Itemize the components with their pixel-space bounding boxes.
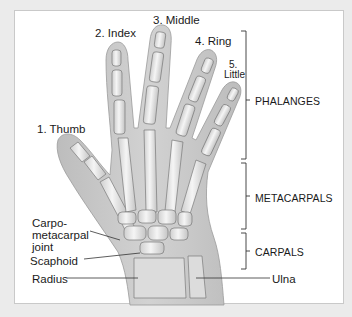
label-ring: 4. Ring <box>195 35 231 47</box>
region-brackets <box>241 31 250 269</box>
label-scaphoid: Scaphoid <box>30 255 78 267</box>
label-metacarpals: METACARPALS <box>255 192 333 204</box>
label-carpals: CARPALS <box>255 246 304 258</box>
hand-skeleton-illustration <box>0 0 352 317</box>
label-cmc-line1: Carpo- <box>32 217 67 229</box>
label-little: Little <box>224 69 245 80</box>
label-cmc-line3: joint <box>32 241 53 253</box>
label-thumb: 1. Thumb <box>37 123 85 135</box>
label-index: 2. Index <box>95 27 136 39</box>
label-radius: Radius <box>32 273 68 285</box>
label-cmc-line2: metacarpal <box>32 229 89 241</box>
label-middle: 3. Middle <box>153 14 200 26</box>
label-phalanges: PHALANGES <box>255 95 320 107</box>
label-ulna: Ulna <box>272 273 296 285</box>
